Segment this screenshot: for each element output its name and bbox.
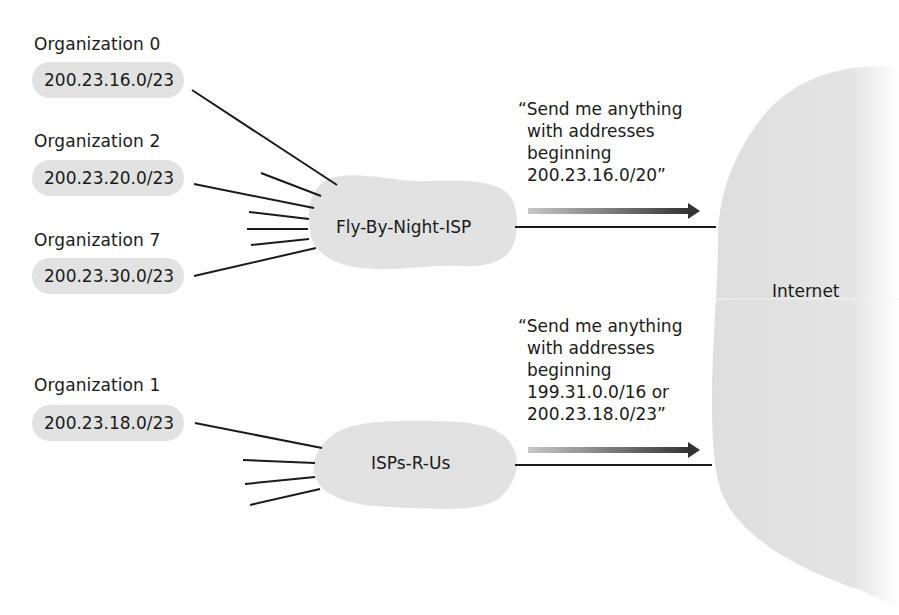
org-2-prefix: 200.23.20.0/23	[32, 160, 184, 196]
internet-cloud	[712, 66, 899, 610]
internet-label: Internet	[772, 281, 840, 301]
announcement-2-line: “Send me anything	[518, 315, 682, 337]
isps-r-us-label: ISPs-R-Us	[371, 453, 450, 473]
announcement-2-line: 199.31.0.0/16 or	[518, 381, 682, 403]
announcement-arrow-1	[528, 203, 700, 219]
org-2-label: Organization 2	[34, 131, 160, 151]
announcement-2-line: with addresses	[518, 337, 682, 359]
org-0-label: Organization 0	[34, 34, 160, 54]
org-1-prefix: 200.23.18.0/23	[32, 405, 184, 441]
isps-r-us-links	[195, 423, 322, 505]
arrow-head-icon	[688, 442, 700, 458]
fly-by-night-links	[192, 90, 337, 276]
announcement-2-line: beginning	[518, 359, 682, 381]
link-stub	[261, 173, 321, 196]
link-stub	[243, 460, 315, 463]
link-org0	[192, 90, 337, 185]
announcement-arrow-2	[528, 442, 700, 458]
org-7-label: Organization 7	[34, 230, 160, 250]
link-org7	[194, 248, 316, 276]
link-stub	[249, 212, 309, 219]
announcement-1: “Send me anything with addresses beginni…	[518, 98, 682, 186]
link-stub	[251, 239, 309, 245]
announcement-1-line: with addresses	[518, 120, 682, 142]
org-7-prefix: 200.23.30.0/23	[32, 258, 184, 294]
announcement-1-line: beginning	[518, 142, 682, 164]
link-stub	[250, 489, 320, 505]
link-org1	[195, 423, 322, 448]
link-org2	[194, 184, 314, 208]
arrow-head-icon	[688, 203, 700, 219]
announcement-2-line: 200.23.18.0/23”	[518, 403, 682, 425]
announcement-2: “Send me anything with addresses beginni…	[518, 315, 682, 425]
fly-by-night-isp-label: Fly-By-Night-ISP	[336, 217, 471, 237]
org-0-prefix: 200.23.16.0/23	[32, 62, 184, 98]
link-stub	[245, 477, 315, 484]
announcement-1-line: 200.23.16.0/20”	[518, 164, 682, 186]
route-aggregation-diagram: Organization 0 200.23.16.0/23 Organizati…	[0, 0, 899, 615]
announcement-1-line: “Send me anything	[518, 98, 682, 120]
org-1-label: Organization 1	[34, 375, 160, 395]
